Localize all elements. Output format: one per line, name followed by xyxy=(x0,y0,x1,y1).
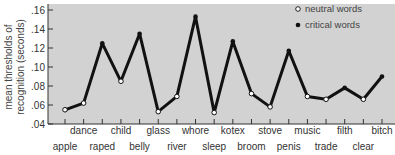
neutral-point xyxy=(81,101,86,106)
x-category-label: broom xyxy=(237,141,265,152)
x-category-label: child xyxy=(111,125,132,136)
y-axis-label: mean thresholds of recognition (seconds) xyxy=(3,19,26,115)
x-category-label: raped xyxy=(90,141,116,152)
x-category-label: music xyxy=(294,125,320,136)
x-category-label: belly xyxy=(129,141,150,152)
neutral-point xyxy=(212,110,217,115)
neutral-point xyxy=(175,94,180,99)
critical-point xyxy=(231,39,236,44)
x-category-label: apple xyxy=(53,141,78,152)
critical-marker-icon xyxy=(296,23,301,28)
x-category-label: filth xyxy=(337,125,353,136)
y-tick-label: .14 xyxy=(31,24,45,35)
y-tick-label: .16 xyxy=(31,5,45,16)
neutral-point xyxy=(156,109,161,114)
neutral-point xyxy=(361,97,366,102)
line-chart: .04.06.08.10.12.14.16 appledancerapedchi… xyxy=(0,0,395,155)
y-tick-label: .12 xyxy=(31,43,45,54)
critical-point xyxy=(286,49,291,54)
svg-text:recognition (seconds): recognition (seconds) xyxy=(15,19,26,115)
neutral-marker-icon xyxy=(296,7,301,12)
y-tick-label: .08 xyxy=(31,81,45,92)
x-category-label: glass xyxy=(147,125,170,136)
svg-text:mean thresholds of: mean thresholds of xyxy=(3,24,14,109)
critical-point xyxy=(380,74,385,79)
x-category-label: kotex xyxy=(221,125,245,136)
critical-point xyxy=(100,41,105,46)
neutral-point xyxy=(268,105,273,110)
neutral-point xyxy=(249,91,254,96)
x-category-label: penis xyxy=(277,141,301,152)
neutral-point xyxy=(324,97,329,102)
x-category-label: river xyxy=(167,141,187,152)
x-category-label: clear xyxy=(353,141,375,152)
critical-point xyxy=(342,86,347,91)
critical-point xyxy=(137,31,142,36)
y-tick-label: .04 xyxy=(31,119,45,130)
x-category-label: sleep xyxy=(202,141,226,152)
x-category-label: stove xyxy=(258,125,282,136)
legend-neutral: neutral words xyxy=(305,3,362,14)
critical-point xyxy=(193,14,198,19)
neutral-point xyxy=(119,79,124,84)
y-tick-label: .10 xyxy=(31,62,45,73)
x-category-label: bitch xyxy=(371,125,392,136)
x-category-label: dance xyxy=(70,125,98,136)
x-category-label: whore xyxy=(181,125,210,136)
neutral-point xyxy=(63,107,68,112)
x-category-label: trade xyxy=(315,141,338,152)
neutral-point xyxy=(305,94,310,99)
y-tick-label: .06 xyxy=(31,100,45,111)
legend-critical: critical words xyxy=(305,19,360,30)
